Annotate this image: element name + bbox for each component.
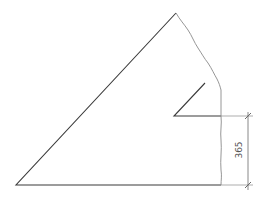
- dimension-label: 365: [234, 141, 244, 158]
- notch-outline: [174, 83, 221, 116]
- technical-drawing: 365: [0, 0, 264, 200]
- break-line-top: [176, 13, 221, 116]
- break-line-right: [221, 116, 222, 185]
- drawing-canvas: 365: [0, 0, 264, 200]
